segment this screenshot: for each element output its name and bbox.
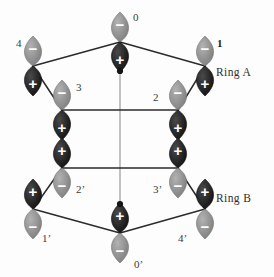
lobe-sign-minus: −	[116, 242, 125, 259]
orbital-lobe-ring-a-1-negative: −	[196, 36, 213, 66]
orbital-lobe-ring-a-4-positive: +	[24, 66, 41, 96]
ring-bond-ring-a-4-0	[33, 42, 120, 66]
orbital-lobe-ring-a-3-positive: +	[53, 110, 70, 140]
orbital-lobe-ring-b-1p-positive: +	[24, 179, 41, 209]
orbital-lobe-ring-b-2p-positive: +	[53, 138, 70, 168]
orbital-lobe-ring-a-2-positive: +	[169, 110, 186, 140]
lobe-sign-minus: −	[174, 177, 183, 194]
center-dot-ring-a	[117, 68, 123, 74]
lobe-sign-minus: −	[58, 84, 67, 101]
lobe-sign-plus: +	[58, 142, 67, 159]
orbital-label-1p: 1’	[42, 233, 51, 244]
orbital-label-2p: 2’	[76, 184, 85, 195]
orbital-lobe-ring-b-4p-negative: −	[196, 209, 213, 239]
ring-bond-ring-b-1p-0p	[33, 209, 120, 233]
orbital-lobe-ring-a-0-negative: −	[111, 12, 128, 42]
orbital-layer: −+−+−+−+−++−+−+−+−+−	[24, 12, 213, 263]
lobe-sign-minus: −	[201, 218, 210, 235]
orbital-lobe-ring-b-3p-positive: +	[169, 138, 186, 168]
ring-bond-ring-b-0p-4p	[120, 209, 205, 233]
orbital-label-1: 1	[217, 38, 223, 49]
lobe-sign-plus: +	[29, 183, 38, 200]
orbital-lobe-ring-a-3-negative: −	[53, 80, 70, 110]
orbital-lobe-ring-b-0p-negative: −	[111, 233, 128, 263]
lobe-sign-plus: +	[116, 207, 125, 224]
orbital-lobe-ring-b-1p-negative: −	[24, 209, 41, 239]
orbital-label-3: 3	[76, 82, 82, 93]
orbital-diagram: −+−+−+−+−++−+−+−+−+− 012342’3’1’4’0’Ring…	[0, 0, 274, 277]
orbital-lobe-ring-a-1-positive: +	[196, 66, 213, 96]
center-dot-ring-b	[117, 201, 123, 207]
lobe-sign-plus: +	[29, 75, 38, 92]
lobe-sign-minus: −	[174, 84, 183, 101]
orbital-lobe-ring-b-0p-positive: +	[111, 203, 128, 233]
orbital-label-3p: 3’	[153, 184, 162, 195]
orbital-label-0p: 0’	[134, 259, 143, 270]
ring-name-label-ring-b: Ring B	[216, 192, 251, 204]
orbital-lobe-ring-a-0-positive: +	[111, 42, 128, 72]
lobe-sign-plus: +	[201, 183, 210, 200]
lobe-sign-plus: +	[58, 119, 67, 136]
orbital-label-4p: 4’	[178, 233, 187, 244]
orbital-label-2: 2	[153, 92, 159, 103]
lobe-sign-plus: +	[174, 142, 183, 159]
orbital-lobe-ring-b-2p-negative: −	[53, 168, 70, 198]
lobe-sign-minus: −	[58, 177, 67, 194]
orbital-lobe-ring-b-4p-positive: +	[196, 179, 213, 209]
orbital-lobe-ring-a-2-negative: −	[169, 80, 186, 110]
lobe-sign-plus: +	[174, 119, 183, 136]
lobe-sign-plus: +	[116, 51, 125, 68]
lobe-sign-plus: +	[201, 75, 210, 92]
ring-name-label-ring-a: Ring A	[216, 66, 251, 78]
ring-bond-ring-a-0-1	[120, 42, 205, 66]
lobe-sign-minus: −	[116, 16, 125, 33]
orbital-lobe-ring-b-3p-negative: −	[169, 168, 186, 198]
orbital-lobe-ring-a-4-negative: −	[24, 36, 41, 66]
lobe-sign-minus: −	[29, 40, 38, 57]
orbital-label-4: 4	[16, 38, 22, 49]
lobe-sign-minus: −	[29, 218, 38, 235]
orbital-label-0: 0	[133, 12, 139, 23]
lobe-sign-minus: −	[201, 40, 210, 57]
